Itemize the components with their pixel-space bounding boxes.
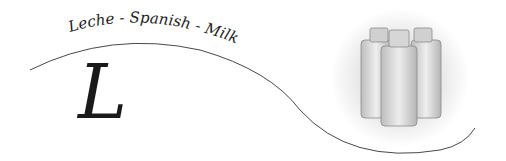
tagline-text: Leche - Spanish - Milk bbox=[65, 9, 241, 48]
milk-bottles-icon bbox=[361, 28, 441, 126]
monogram-letter: L bbox=[76, 49, 127, 135]
logo-canvas: Leche - Spanish - Milk L bbox=[0, 0, 506, 161]
logo-artwork: Leche - Spanish - Milk L bbox=[0, 0, 506, 161]
